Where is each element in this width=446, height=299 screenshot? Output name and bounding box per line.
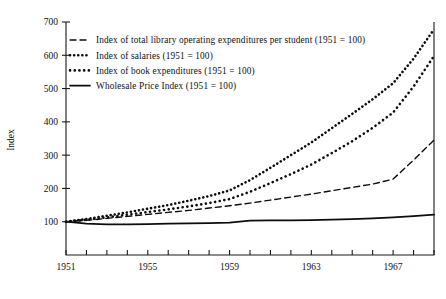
x-tick-label: 1951 xyxy=(57,262,76,272)
x-tick-label: 1967 xyxy=(384,262,403,272)
x-axis: 19511955195919631967 xyxy=(57,250,435,272)
legend-item: Wholesale Price Index (1951 = 100) xyxy=(70,81,236,92)
legend-item: Index of total library operating expendi… xyxy=(70,35,365,46)
y-axis-title: Index xyxy=(6,129,16,151)
legend-label: Index of salaries (1951 = 100) xyxy=(96,51,213,62)
chart-page: 100200300400500600700 195119551959196319… xyxy=(0,0,446,299)
y-tick-label: 400 xyxy=(44,117,59,127)
y-tick-label: 600 xyxy=(44,51,59,61)
legend-label: Index of total library operating expendi… xyxy=(96,35,365,46)
x-tick-label: 1963 xyxy=(302,262,321,272)
legend-item: Index of book expenditures (1951 = 100) xyxy=(70,66,255,77)
x-tick-label: 1955 xyxy=(138,262,157,272)
line-chart: 100200300400500600700 195119551959196319… xyxy=(0,0,446,299)
chart-legend: Index of total library operating expendi… xyxy=(70,35,365,92)
legend-label: Index of book expenditures (1951 = 100) xyxy=(96,66,255,77)
y-tick-label: 500 xyxy=(44,84,59,94)
legend-item: Index of salaries (1951 = 100) xyxy=(70,51,213,62)
y-tick-label: 100 xyxy=(44,217,59,227)
y-tick-label: 300 xyxy=(44,151,59,161)
legend-label: Wholesale Price Index (1951 = 100) xyxy=(96,81,236,92)
y-tick-label: 200 xyxy=(44,184,59,194)
y-tick-label: 700 xyxy=(44,17,59,27)
x-tick-label: 1959 xyxy=(220,262,239,272)
